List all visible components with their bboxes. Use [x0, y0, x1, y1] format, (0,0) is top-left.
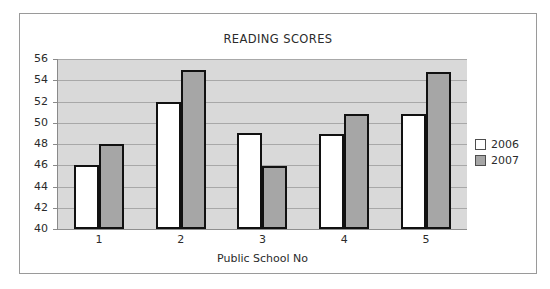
- y-axis-label-46: 46: [22, 158, 48, 171]
- chart-title: READING SCORES: [20, 32, 536, 46]
- y-axis-label-40: 40: [22, 222, 48, 235]
- y-axis-tick-54: [53, 80, 58, 81]
- legend-swatch-2007-icon: [475, 155, 486, 166]
- y-axis-label-54: 54: [22, 73, 48, 86]
- y-axis-tick-52: [53, 102, 58, 103]
- x-axis-label-3: 3: [243, 233, 283, 246]
- bar-2007-school-2[interactable]: [181, 70, 206, 229]
- legend-label-2007: 2007: [491, 154, 519, 167]
- y-axis-label-44: 44: [22, 180, 48, 193]
- bar-2007-school-4[interactable]: [344, 114, 369, 229]
- x-axis-title: Public School No: [58, 252, 467, 265]
- bar-2007-school-1[interactable]: [99, 144, 124, 229]
- bar-group-4: [303, 59, 385, 229]
- bar-2007-school-3[interactable]: [262, 166, 287, 229]
- y-axis-tick-44: [53, 187, 58, 188]
- legend-item-2006: 2006: [475, 138, 519, 151]
- bar-2006-school-5[interactable]: [401, 114, 426, 229]
- bar-2006-school-4[interactable]: [319, 134, 344, 229]
- legend-label-2006: 2006: [491, 138, 519, 151]
- legend-item-2007: 2007: [475, 154, 519, 167]
- bar-2007-school-5[interactable]: [426, 72, 451, 229]
- bar-group-3: [222, 59, 304, 229]
- bar-group-5: [385, 59, 467, 229]
- y-axis-tick-46: [53, 165, 58, 166]
- x-axis-label-1: 1: [79, 233, 119, 246]
- y-axis-label-56: 56: [22, 52, 48, 65]
- y-axis-tick-56: [53, 59, 58, 60]
- y-axis-label-48: 48: [22, 137, 48, 150]
- x-axis-label-4: 4: [324, 233, 364, 246]
- legend-swatch-2006-icon: [475, 139, 486, 150]
- chart-legend: 2006 2007: [475, 138, 519, 170]
- bar-2006-school-3[interactable]: [237, 133, 262, 229]
- plot-area: [58, 59, 467, 229]
- y-axis-label-50: 50: [22, 116, 48, 129]
- y-axis-tick-48: [53, 144, 58, 145]
- bar-group-1: [58, 59, 140, 229]
- y-axis-label-52: 52: [22, 95, 48, 108]
- x-axis-label-2: 2: [161, 233, 201, 246]
- x-axis-label-5: 5: [406, 233, 446, 246]
- y-axis-label-42: 42: [22, 201, 48, 214]
- y-axis-tick-50: [53, 123, 58, 124]
- y-axis-tick-42: [53, 208, 58, 209]
- gridline-40: [58, 229, 467, 230]
- bar-2006-school-2[interactable]: [156, 102, 181, 230]
- chart-frame: READING SCORES 565452504846444240 12345 …: [19, 13, 537, 274]
- y-axis-tick-40: [53, 229, 58, 230]
- bar-2006-school-1[interactable]: [74, 165, 99, 229]
- bar-group-2: [140, 59, 222, 229]
